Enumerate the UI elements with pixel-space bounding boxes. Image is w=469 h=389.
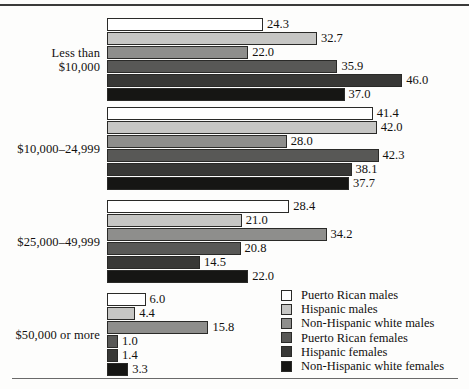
bar[interactable] bbox=[107, 32, 317, 45]
legend-item[interactable]: Hispanic males bbox=[281, 302, 467, 316]
bar-value-label: 32.7 bbox=[321, 31, 343, 45]
bar[interactable] bbox=[107, 270, 248, 283]
category-label: $50,000 or more bbox=[0, 328, 100, 343]
legend-label: Hispanic males bbox=[301, 302, 378, 316]
bar[interactable] bbox=[107, 228, 327, 241]
legend-label: Puerto Rican males bbox=[301, 288, 398, 302]
category-label-line: $10,000–24,999 bbox=[0, 142, 100, 157]
top-divider-rule bbox=[0, 4, 469, 6]
bar[interactable] bbox=[107, 293, 146, 306]
bar[interactable] bbox=[107, 214, 242, 227]
bar-value-label: 6.0 bbox=[150, 292, 166, 306]
bar-value-label: 42.3 bbox=[383, 148, 405, 162]
bar-value-label: 21.0 bbox=[246, 213, 268, 227]
category-label: $10,000–24,999 bbox=[0, 142, 100, 157]
legend-label: Non-Hispanic white females bbox=[301, 359, 444, 373]
category-label: $25,000–49,999 bbox=[0, 235, 100, 250]
bar[interactable] bbox=[107, 256, 200, 269]
bar[interactable] bbox=[107, 74, 402, 87]
category-label-line: $25,000–49,999 bbox=[0, 235, 100, 250]
bar[interactable] bbox=[107, 335, 118, 348]
bar-value-label: 28.4 bbox=[293, 199, 315, 213]
bar-value-label: 1.0 bbox=[122, 334, 138, 348]
legend-item[interactable]: Puerto Rican males bbox=[281, 288, 467, 302]
bar[interactable] bbox=[107, 349, 118, 362]
bar[interactable] bbox=[107, 177, 349, 190]
legend-item[interactable]: Non-Hispanic white females bbox=[281, 359, 467, 373]
bar-value-label: 3.3 bbox=[132, 362, 148, 376]
bar-value-label: 22.0 bbox=[252, 269, 274, 283]
bar[interactable] bbox=[107, 60, 337, 73]
category-label-line: $10,000 bbox=[0, 60, 100, 75]
bar-value-label: 42.0 bbox=[381, 120, 403, 134]
bar-value-label: 1.4 bbox=[122, 348, 138, 362]
chart-figure: Less than$10,00024.332.722.035.946.037.0… bbox=[0, 0, 469, 389]
bar[interactable] bbox=[107, 107, 373, 120]
bottom-divider-rule bbox=[12, 378, 458, 379]
bar-value-label: 28.0 bbox=[291, 134, 313, 148]
bar-value-label: 41.4 bbox=[377, 106, 399, 120]
legend-swatch-icon bbox=[281, 318, 292, 329]
legend-item[interactable]: Puerto Rican females bbox=[281, 331, 467, 345]
legend-swatch-icon bbox=[281, 332, 292, 343]
legend-label: Puerto Rican females bbox=[301, 331, 408, 345]
bar[interactable] bbox=[107, 200, 289, 213]
legend-item[interactable]: Non-Hispanic white males bbox=[281, 316, 467, 330]
category-label-line: Less than bbox=[0, 46, 100, 61]
legend-swatch-icon bbox=[281, 290, 292, 301]
bar-value-label: 4.4 bbox=[139, 306, 155, 320]
category-label: Less than$10,000 bbox=[0, 46, 100, 75]
bar[interactable] bbox=[107, 18, 263, 31]
bar[interactable] bbox=[107, 321, 208, 334]
bar-value-label: 34.2 bbox=[331, 227, 353, 241]
bar-value-label: 38.1 bbox=[356, 162, 378, 176]
bar[interactable] bbox=[107, 88, 345, 101]
bar[interactable] bbox=[107, 46, 248, 59]
bar[interactable] bbox=[107, 163, 352, 176]
category-label-line: $50,000 or more bbox=[0, 328, 100, 343]
chart-legend: Puerto Rican malesHispanic malesNon-Hisp… bbox=[281, 288, 467, 373]
bar[interactable] bbox=[107, 135, 287, 148]
bar[interactable] bbox=[107, 149, 379, 162]
legend-item[interactable]: Hispanic females bbox=[281, 345, 467, 359]
bar-value-label: 46.0 bbox=[406, 73, 428, 87]
bar[interactable] bbox=[107, 242, 241, 255]
legend-label: Non-Hispanic white males bbox=[301, 316, 434, 330]
legend-swatch-icon bbox=[281, 304, 292, 315]
bar-value-label: 20.8 bbox=[245, 241, 267, 255]
bar-value-label: 24.3 bbox=[267, 17, 289, 31]
bar-value-label: 35.9 bbox=[341, 59, 363, 73]
legend-swatch-icon bbox=[281, 346, 292, 357]
bar-value-label: 22.0 bbox=[252, 45, 274, 59]
bar[interactable] bbox=[107, 121, 377, 134]
bar[interactable] bbox=[107, 307, 135, 320]
legend-label: Hispanic females bbox=[301, 345, 387, 359]
bar-value-label: 15.8 bbox=[212, 320, 234, 334]
bar[interactable] bbox=[107, 363, 128, 376]
bar-value-label: 37.7 bbox=[353, 176, 375, 190]
bar-value-label: 37.0 bbox=[349, 87, 371, 101]
legend-swatch-icon bbox=[281, 361, 292, 372]
bar-value-label: 14.5 bbox=[204, 255, 226, 269]
